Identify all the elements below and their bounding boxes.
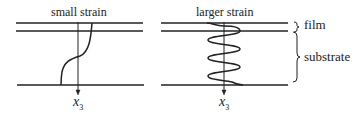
substrate-brace-icon [293,32,300,82]
film-brace-icon [294,22,299,32]
right-x3-label: x3 [219,96,229,114]
left-x3-label: x3 [73,96,83,114]
small-strain-title: small strain [51,6,107,18]
left-axis-subscript: 3 [79,103,83,112]
film-label: film [304,19,326,31]
right-axis-subscript: 3 [225,103,229,112]
left-strain-curve [61,23,92,85]
substrate-label: substrate [304,51,350,63]
right-strain-curve [207,23,243,85]
larger-strain-title: larger strain [196,6,253,18]
